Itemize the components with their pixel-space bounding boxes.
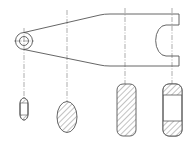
section-3 [117,84,136,136]
lever-body [24,14,179,66]
section-1 [20,98,28,120]
section-4 [163,84,182,136]
technical-drawing [0,0,190,142]
centerlines [14,8,172,102]
lever-outline [16,14,180,66]
section-2 [57,102,77,133]
